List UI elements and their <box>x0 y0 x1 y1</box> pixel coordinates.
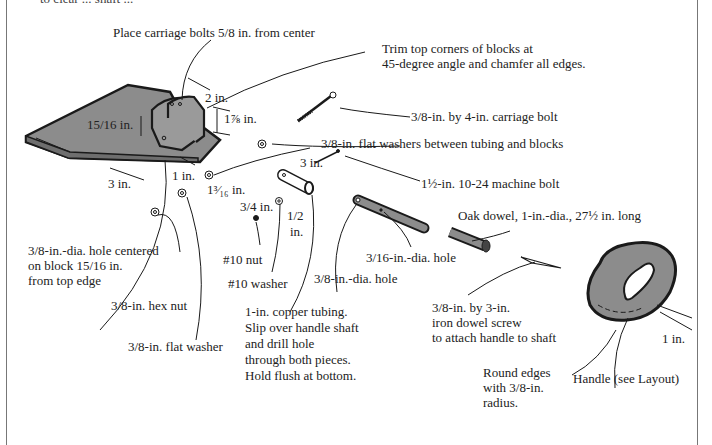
label-10-nut: #10 nut <box>223 252 262 267</box>
label-carriage-bolt: 3/8-in. by 4-in. carriage bolt <box>411 109 558 124</box>
label-flat-washer: 3/8-in. flat washer <box>128 339 223 354</box>
flat-washer-a <box>258 140 266 148</box>
handle-shaft <box>356 198 424 228</box>
dim-1-7-8in: 1⅞ in. <box>224 111 257 126</box>
label-oak-dowel: Oak dowel, 1-in.-dia., 27½ in. long <box>458 208 641 223</box>
caption-cut-off: to clear ... shaft ... <box>40 0 133 7</box>
carriage-bolt <box>298 92 336 121</box>
label-copper-line5: Hold flush at bottom. <box>245 368 356 383</box>
label-block-hole-line2: on block 15/16 in. <box>28 258 123 273</box>
dim-1-2-top: 1/2 <box>287 208 304 223</box>
label-carriage-bolt-position: Place carriage bolts 5/8 in. from center <box>113 25 315 40</box>
label-flat-washers-between: 3/8-in. flat washers between tubing and … <box>321 136 563 151</box>
label-dowel-screw-line1: 3/8-in. by 3-in. <box>432 300 510 315</box>
copper-tubing <box>283 174 314 195</box>
label-hex-nut: 3/8-in. hex nut <box>111 298 187 313</box>
label-copper-line2: Slip over handle shaft <box>245 320 359 335</box>
label-round-edges-line3: radius. <box>483 395 518 410</box>
dim-1in-block: 1 in. <box>172 168 195 183</box>
label-machine-bolt: 1½-in. 10-24 machine bolt <box>421 176 559 191</box>
label-10-washer: #10 washer <box>228 276 288 291</box>
label-3-8-hole-shaft: 3/8-in.-dia. hole <box>314 271 397 286</box>
oak-dowel <box>450 232 490 252</box>
dim-3in-tube: 3 in. <box>300 155 323 170</box>
label-dowel-screw-line2: iron dowel screw <box>432 315 522 330</box>
label-copper-line1: 1-in. copper tubing. <box>245 304 348 319</box>
label-block-hole-line1: 3/8-in.-dia. hole centered <box>28 243 159 258</box>
flat-washer-c <box>178 189 186 197</box>
label-copper-line4: through both pieces. <box>245 352 351 367</box>
label-round-edges-line2: with 3/8-in. <box>483 380 544 395</box>
dim-1-2-bottom: in. <box>290 224 303 239</box>
dim-3-4in: 3/4 in. <box>240 199 273 214</box>
label-dowel-screw-line3: to attach handle to shaft <box>432 330 556 345</box>
label-trim-corners-line1: Trim top corners of blocks at <box>382 41 533 56</box>
mounting-blocks <box>152 97 204 150</box>
label-handle: Handle (see Layout) <box>573 371 679 386</box>
dim-1-3-16in: 1³⁄₁₆ in. <box>207 182 245 197</box>
dim-3in-block: 3 in. <box>108 176 131 191</box>
flat-washer-b <box>205 171 213 179</box>
dim-1in-handle: 1 in. <box>662 331 685 346</box>
dim-2in: 2 in. <box>205 90 228 105</box>
hex-nut <box>151 208 159 216</box>
label-round-edges-line1: Round edges <box>483 365 551 380</box>
label-copper-line3: and drill hole <box>245 336 314 351</box>
label-3-16-hole: 3/16-in.-dia. hole <box>366 250 456 265</box>
label-trim-corners-line2: 45-degree angle and chamfer all edges. <box>382 56 586 71</box>
label-block-hole-line3: from top edge <box>28 273 101 288</box>
handle-part <box>588 243 692 331</box>
dim-15-16in: 15/16 in. <box>87 117 133 132</box>
iron-dowel-screw <box>521 257 561 268</box>
